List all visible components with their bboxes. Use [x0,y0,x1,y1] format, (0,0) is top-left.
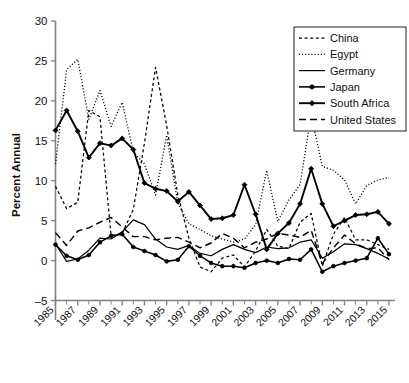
legend-label: United States [330,114,397,126]
x-tick-label: 1985 [31,303,56,328]
chart-container: Percent Annual –5051015202530 1985198719… [0,0,409,383]
y-tick-label: 5 [41,215,47,227]
y-tick-label: 10 [35,175,48,187]
x-tick-label: 2003 [231,303,256,328]
x-tick-label: 1993 [120,303,145,328]
x-tick-label: 1991 [98,303,123,328]
legend-label: Japan [330,81,360,93]
x-tick-label: 2001 [209,303,234,328]
x-tick-label: 1987 [53,303,78,328]
x-tick-label: 2015 [364,303,389,328]
y-tick-label: 20 [35,95,48,107]
y-tick-label: 15 [35,135,48,147]
legend-label: South Africa [330,97,390,109]
x-tick-label: 1999 [187,303,212,328]
y-tick-label: 0 [41,255,47,267]
y-axis-ticks: –5051015202530 [35,15,56,307]
x-tick-label: 1995 [142,303,167,328]
chart-legend: ChinaEgyptGermanyJapanSouth AfricaUnited… [294,27,406,131]
x-tick-label: 2009 [298,303,323,328]
legend-label: China [330,32,360,44]
y-axis-label: Percent Annual [10,133,22,217]
series-germany [56,220,390,262]
legend-label: Germany [330,65,376,77]
x-tick-label: 2013 [342,303,367,328]
x-tick-label: 2005 [253,303,278,328]
legend-label: Egypt [330,48,358,60]
x-tick-label: 2011 [320,303,345,328]
x-tick-label: 2007 [275,303,300,328]
x-tick-label: 1997 [164,303,189,328]
line-chart: Percent Annual –5051015202530 1985198719… [0,0,409,383]
y-tick-label: 25 [35,55,48,67]
y-tick-label: 30 [35,15,48,27]
x-axis-ticks: 1985198719891991199319951997199920012003… [31,301,390,329]
x-tick-label: 1989 [75,303,100,328]
